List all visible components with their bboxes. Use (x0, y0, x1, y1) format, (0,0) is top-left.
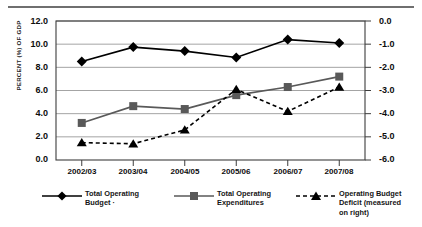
legend-label-operating-budget-deficit: Operating Budget Deficit (measured on ri… (339, 188, 401, 217)
gridlines (56, 21, 365, 137)
legend-key-diamond (42, 188, 82, 200)
series-3 (77, 82, 345, 147)
legend-label-total-operating-expenditures: Total Operating Expenditures (217, 188, 271, 208)
data-point-triangle (231, 85, 241, 93)
legend-label-total-operating-budget: Total Operating Budget · (85, 188, 139, 208)
data-point-square (181, 105, 189, 113)
data-point-triangle (128, 139, 138, 147)
series-line (82, 40, 340, 62)
data-point-diamond (77, 57, 87, 67)
legend-item-total-operating-budget[interactable]: Total Operating Budget · (42, 188, 139, 208)
legend-key-triangle (296, 188, 336, 200)
data-point-diamond (231, 52, 241, 62)
data-point-square (129, 102, 137, 110)
legend-item-operating-budget-deficit[interactable]: Operating Budget Deficit (measured on ri… (296, 188, 401, 217)
x-axis-ticks (82, 160, 340, 166)
data-point-triangle (180, 125, 190, 133)
data-point-square (284, 83, 292, 91)
legend-item-total-operating-expenditures[interactable]: Total Operating Expenditures (174, 188, 271, 208)
legend-key-square (174, 188, 214, 200)
chart-figure: PERCENT (%) OF GDP 12.0 10.0 8.0 6.0 4.0… (0, 0, 422, 227)
series-2 (78, 73, 344, 127)
y-axis-ticks-right (365, 21, 371, 160)
data-point-square (78, 119, 86, 127)
data-point-diamond (283, 35, 293, 45)
data-point-diamond (128, 42, 138, 52)
data-point-triangle (283, 107, 293, 115)
data-series-layer (77, 35, 345, 148)
series-line (82, 87, 340, 144)
data-point-square (335, 73, 343, 81)
data-point-diamond (180, 46, 190, 56)
series-line (82, 77, 340, 123)
data-point-diamond (334, 38, 344, 48)
series-1 (77, 35, 345, 67)
data-point-triangle (334, 82, 344, 90)
chart-legend: Total Operating Budget · Total Operating… (0, 186, 422, 227)
